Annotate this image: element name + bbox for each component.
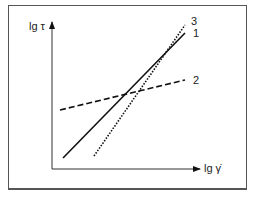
curve-2-dashed — [60, 80, 185, 110]
curve-label-1: 1 — [193, 28, 199, 39]
curve-label-2: 2 — [193, 75, 199, 86]
y-axis-label: lg τ — [29, 21, 45, 32]
x-axis-label: lg γ̇ — [204, 163, 221, 174]
curve-label-3: 3 — [191, 16, 197, 27]
